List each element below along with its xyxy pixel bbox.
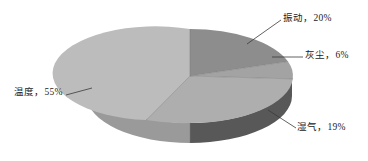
- slice-label-dust: 灰尘，6%: [305, 51, 349, 61]
- slice-label-temperature: 温度，55%: [14, 88, 63, 98]
- pie-chart-graphic: [0, 0, 368, 161]
- leader-line-vibration: [247, 20, 281, 44]
- pie-top-face: [53, 26, 293, 123]
- pie-chart: 振动，20% 灰尘，6% 湿气，19% 温度，55%: [0, 0, 368, 161]
- slice-label-humidity: 湿气，19%: [297, 123, 346, 133]
- slice-label-vibration: 振动，20%: [283, 14, 332, 24]
